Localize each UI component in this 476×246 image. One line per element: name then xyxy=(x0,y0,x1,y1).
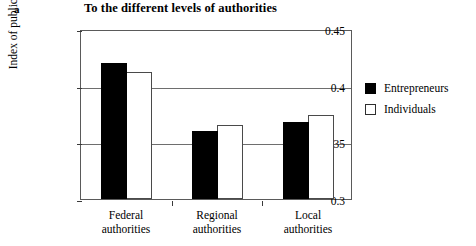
bar-entrepreneurs xyxy=(192,131,218,199)
y-tick-label: 0.4 xyxy=(305,82,345,94)
y-axis-title: Index of public trust xyxy=(7,0,20,98)
legend-item-entrepreneurs: Entrepreneurs xyxy=(365,78,473,99)
legend-label: Entrepreneurs xyxy=(384,82,449,95)
legend-label: Individuals xyxy=(384,103,436,116)
bar-individuals xyxy=(308,115,334,199)
chart-title: To the different levels of authorities xyxy=(84,1,277,16)
chart-legend: Entrepreneurs Individuals xyxy=(365,78,473,120)
x-tick-mark xyxy=(172,201,173,206)
legend-item-individuals: Individuals xyxy=(365,99,473,120)
chart-figure: a To the different levels of authorities… xyxy=(0,0,476,246)
bar-entrepreneurs xyxy=(283,122,309,199)
legend-swatch-hollow-icon xyxy=(365,104,376,115)
y-tick-mark xyxy=(77,31,82,32)
x-tick-mark xyxy=(262,201,263,206)
y-tick-label: 0.45 xyxy=(305,25,345,37)
bar-individuals xyxy=(126,72,152,199)
y-tick-mark xyxy=(77,201,82,202)
y-tick-mark xyxy=(77,144,82,145)
bar-individuals xyxy=(217,125,243,199)
x-category-label: Localauthorities xyxy=(253,208,363,236)
legend-swatch-filled-icon xyxy=(365,83,376,94)
y-tick-mark xyxy=(77,88,82,89)
plot-area: 0.30.350.40.45FederalauthoritiesRegional… xyxy=(80,30,352,200)
bar-entrepreneurs xyxy=(101,63,127,199)
